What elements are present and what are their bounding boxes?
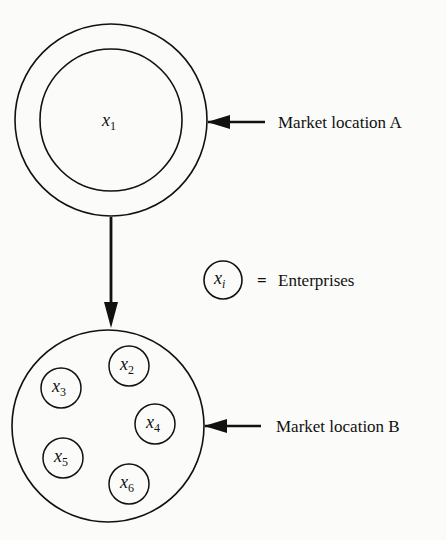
svg-text:x2: x2 xyxy=(119,354,134,377)
legend-equals: = xyxy=(257,271,267,290)
enterprise-x4: x4 xyxy=(135,404,175,444)
relocation-arrow xyxy=(104,217,118,328)
pointer-arrow-b xyxy=(204,419,261,433)
market-a-label: Market location A xyxy=(278,113,402,132)
legend: xi = Enterprises xyxy=(204,261,354,299)
enterprise-x6: x6 xyxy=(109,464,149,504)
legend-text: Enterprises xyxy=(278,271,354,290)
market-relocation-diagram: x1 Market location A xi = Enterprises x2… xyxy=(0,0,446,540)
market-b-label: Market location B xyxy=(276,417,400,436)
enterprise-x2: x2 xyxy=(109,346,149,386)
svg-text:xi: xi xyxy=(213,268,225,291)
svg-text:x4: x4 xyxy=(145,412,160,435)
pointer-arrow-a xyxy=(207,115,265,129)
svg-text:x5: x5 xyxy=(53,446,68,469)
enterprise-x3: x3 xyxy=(41,368,81,408)
market-location-b: x2 x3 x4 x5 x6 xyxy=(12,330,204,522)
svg-text:x3: x3 xyxy=(51,376,66,399)
market-location-a: x1 xyxy=(15,24,207,216)
svg-text:x6: x6 xyxy=(119,472,134,495)
enterprise-x5: x5 xyxy=(43,438,83,478)
enterprise-x1: x1 xyxy=(101,110,116,133)
